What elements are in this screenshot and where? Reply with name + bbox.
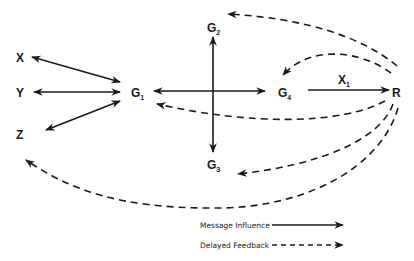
node-r: R [392,86,401,100]
node-g1: G1 [131,86,144,101]
feedback-r-g2 [228,14,397,66]
feedback-r-g4 [283,54,391,75]
edge-z-g1 [46,101,120,130]
node-g2: G2 [207,21,220,36]
edge-x-g1 [32,57,120,82]
svg-text:G1: G1 [131,86,144,101]
node-x: X [16,51,24,65]
legend-delayed-feedback-label: Delayed Feedback [200,241,270,250]
node-y: Y [16,86,24,100]
svg-text:X1: X1 [338,73,350,88]
legend-message-influence-label: Message Influence [200,221,270,230]
svg-text:G4: G4 [278,86,291,101]
legend: Message Influence Delayed Feedback [200,221,343,250]
communication-model-diagram: X Y Z G1 G2 G3 G4 R X1 Message Influence… [0,0,414,261]
feedback-r-g3 [238,104,393,174]
node-z: Z [16,128,23,142]
node-g3: G3 [207,158,220,173]
feedback-r-g1 [157,101,385,119]
svg-text:G3: G3 [207,158,220,173]
svg-text:G2: G2 [207,21,220,36]
node-g4: G4 [278,86,291,101]
edge-label-x1: X1 [338,73,350,88]
